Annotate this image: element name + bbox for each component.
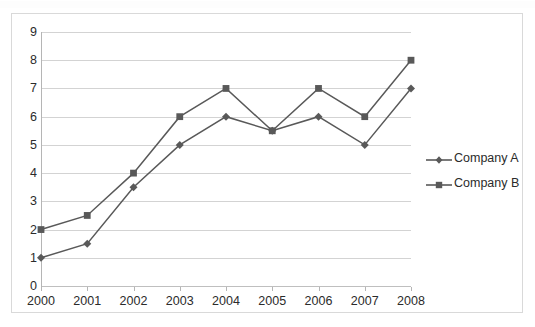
data-point-2000	[37, 254, 45, 262]
x-tick-2003	[180, 287, 181, 291]
x-tick-label-2007: 2007	[340, 295, 390, 308]
y-tick-label-0: 0	[15, 280, 37, 293]
chart-legend: Company A Company B	[426, 145, 521, 195]
x-tick-2006	[319, 287, 320, 291]
data-point-2008	[408, 57, 415, 64]
data-point-2004	[223, 85, 230, 92]
data-point-2001	[84, 212, 91, 219]
chart-frame: 0123456789 20002001200220032004200520062…	[11, 13, 523, 313]
x-tick-2007	[365, 287, 366, 291]
x-tick-label-2004: 2004	[201, 295, 251, 308]
legend-item-company-a[interactable]: Company A	[426, 145, 521, 170]
y-tick-label-6: 6	[15, 111, 37, 124]
data-point-2000	[38, 226, 45, 233]
data-point-2002	[130, 170, 137, 177]
x-tick-label-2002: 2002	[109, 295, 159, 308]
data-point-2005	[269, 127, 276, 134]
series-company-b	[38, 57, 415, 233]
data-point-2006	[315, 113, 323, 121]
series-layer	[41, 32, 411, 286]
x-tick-label-2003: 2003	[155, 295, 205, 308]
x-tick-2005	[272, 287, 273, 291]
y-tick-label-2: 2	[15, 224, 37, 237]
x-axis-ticks	[41, 287, 411, 292]
x-axis-tick-labels: 200020012002200320042005200620072008	[41, 295, 411, 313]
y-tick-label-3: 3	[15, 195, 37, 208]
scan-artifact	[0, 1, 535, 8]
y-tick-label-1: 1	[15, 252, 37, 265]
data-point-2004	[222, 113, 230, 121]
x-tick-2001	[87, 287, 88, 291]
y-axis-tick-labels: 0123456789	[12, 32, 37, 286]
square-marker-icon	[426, 177, 452, 189]
diamond-marker-icon	[426, 152, 452, 164]
series-company-a	[37, 84, 415, 261]
data-point-2003	[176, 113, 183, 120]
x-tick-2004	[226, 287, 227, 291]
x-tick-label-2008: 2008	[386, 295, 436, 308]
data-point-2007	[361, 113, 368, 120]
y-tick-label-9: 9	[15, 26, 37, 39]
legend-label-company-a: Company A	[452, 151, 519, 165]
x-tick-2008	[411, 287, 412, 291]
y-tick-label-5: 5	[15, 139, 37, 152]
x-tick-label-2005: 2005	[247, 295, 297, 308]
x-tick-label-2000: 2000	[16, 295, 66, 308]
y-tick-label-4: 4	[15, 167, 37, 180]
legend-item-company-b[interactable]: Company B	[426, 170, 521, 195]
data-point-2006	[315, 85, 322, 92]
x-tick-label-2006: 2006	[294, 295, 344, 308]
x-tick-label-2001: 2001	[62, 295, 112, 308]
y-tick-label-8: 8	[15, 54, 37, 67]
legend-label-company-b: Company B	[452, 176, 519, 190]
y-tick-label-7: 7	[15, 82, 37, 95]
x-tick-2002	[134, 287, 135, 291]
x-tick-2000	[41, 287, 42, 291]
